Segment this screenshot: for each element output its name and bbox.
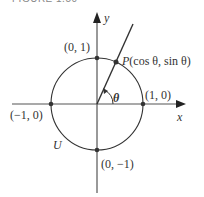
y-axis-arrow-icon [93, 12, 101, 23]
angle-label: θ [113, 92, 119, 104]
label-bottom-point: (0, −1) [101, 158, 134, 170]
unit-circle-figure: FIGURE 1.50 y x (0, 1) (1, 0) (−1, 0) (0… [0, 0, 204, 197]
circle-label: U [53, 139, 62, 151]
y-axis-label: y [104, 12, 109, 24]
point-bottom [95, 148, 100, 153]
point-p [114, 60, 119, 65]
label-right-point: (1, 0) [145, 89, 171, 101]
point-top [95, 56, 100, 61]
label-top-point: (0, 1) [64, 41, 90, 53]
point-right [141, 102, 146, 107]
x-axis-arrow-icon [176, 100, 186, 108]
label-left-point: (−1, 0) [10, 109, 43, 121]
label-point-p: P(cos θ, sin θ) [122, 55, 191, 67]
point-left [49, 102, 54, 107]
x-axis-label: x [177, 111, 182, 123]
label-p-body: (cos θ, sin θ) [129, 54, 191, 68]
angle-arrow-icon [103, 88, 108, 94]
